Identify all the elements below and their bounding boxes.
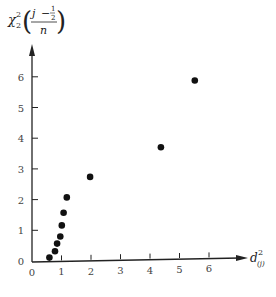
y-axis-label: χ 2 2 ( j − 1 2 n ) <box>7 5 66 37</box>
data-points <box>46 77 198 261</box>
y-tick-label: 4 <box>18 133 24 144</box>
x-axis-arrow-icon <box>236 255 248 261</box>
y-ticks: 0123456 <box>18 72 38 267</box>
data-point <box>59 222 66 229</box>
y-tick-label: 2 <box>18 195 24 206</box>
x-tick-label: 5 <box>176 264 182 275</box>
svg-text:(j): (j) <box>257 260 265 268</box>
x-axis-line <box>32 258 240 262</box>
data-point <box>87 174 94 181</box>
y-axis-arrow-icon <box>29 44 35 56</box>
svg-text:−: − <box>41 7 50 20</box>
x-tick-label: 1 <box>58 266 64 277</box>
data-point <box>158 144 165 151</box>
x-axis-label: d 2 (j) <box>250 248 265 268</box>
svg-text:n: n <box>40 24 47 37</box>
x-tick-label: 2 <box>88 266 94 277</box>
y-tick-label: 6 <box>18 72 24 83</box>
x-ticks: 0123456 <box>29 252 212 278</box>
x-tick-label: 4 <box>147 265 153 276</box>
y-tick-label: 5 <box>18 103 24 114</box>
y-tick-label: 0 <box>18 256 24 267</box>
x-tick-label: 6 <box>206 263 212 274</box>
svg-text:2: 2 <box>16 10 21 19</box>
y-tick-label: 3 <box>18 164 24 175</box>
data-point <box>52 248 59 255</box>
data-point <box>57 233 64 240</box>
left-paren: ( <box>22 6 32 36</box>
scatter-chart: 0123456 0123456 χ 2 2 ( j − 1 2 n ) d 2 … <box>0 0 276 297</box>
data-point <box>46 254 53 261</box>
y-tick-label: 1 <box>18 225 24 236</box>
svg-text:2: 2 <box>16 21 21 30</box>
data-point <box>60 210 67 217</box>
data-point <box>64 194 71 201</box>
svg-text:2: 2 <box>258 248 263 257</box>
svg-text:1: 1 <box>51 5 55 13</box>
data-point <box>192 77 199 84</box>
right-paren: ) <box>56 6 66 36</box>
x-tick-label: 3 <box>117 265 123 276</box>
axes <box>29 44 248 262</box>
svg-text:2: 2 <box>51 14 55 22</box>
data-point <box>54 240 61 247</box>
x-tick-label: 0 <box>29 267 35 278</box>
